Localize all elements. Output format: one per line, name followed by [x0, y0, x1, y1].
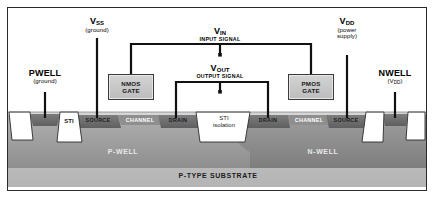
label-substrate: P-TYPE SUBSTRATE	[138, 172, 298, 179]
label-vdd: VDD (power supply)	[318, 16, 376, 40]
nmos-gate[interactable]: NMOS GATE	[108, 74, 154, 100]
label-pmos-drain: DRAIN	[249, 117, 287, 123]
diagram-canvas: PWELL (ground) VSS (ground) VIN INPUT SI…	[0, 0, 436, 200]
label-nmos-drain: DRAIN	[159, 117, 197, 123]
nmos-gate-line2: GATE	[122, 87, 140, 94]
label-n-well: N-WELL	[288, 148, 358, 155]
label-sti-center-line1: STI	[196, 115, 252, 122]
label-pwell-tap-name: PWELL	[14, 68, 76, 78]
label-vin: VIN INPUT SIGNAL	[178, 26, 262, 43]
label-vout-note: OUTPUT SIGNAL	[176, 74, 264, 80]
label-vdd-note-line1: (power	[318, 27, 376, 34]
label-sti-center: STI isolation	[196, 115, 252, 129]
sti-far-right	[406, 112, 425, 140]
label-nmos-channel: CHANNEL	[117, 117, 163, 123]
vin-terminal-dot	[218, 53, 222, 57]
label-nwell-tap-name: NWELL	[364, 68, 426, 78]
label-pwell-tap: PWELL (ground)	[14, 68, 76, 85]
label-vss-subscript: SS	[96, 20, 104, 26]
label-vdd-name: VDD	[318, 16, 376, 27]
label-vout: VOUT OUTPUT SIGNAL	[176, 63, 264, 80]
label-sti-left-text: STI	[64, 118, 73, 124]
label-nwell-tap: NWELL (VDD)	[364, 68, 426, 85]
label-pwell-tap-note: (ground)	[14, 78, 76, 85]
label-p-well: P-WELL	[88, 148, 158, 155]
label-vss-name: VSS	[62, 16, 132, 27]
sti-far-left	[9, 112, 33, 140]
label-nmos-source: SOURCE	[76, 117, 120, 123]
label-pmos-source: SOURCE	[324, 117, 368, 123]
vout-terminal-dot	[218, 90, 222, 94]
label-vdd-note-line2: supply)	[318, 33, 376, 40]
label-vss: VSS (ground)	[62, 16, 132, 33]
label-sti-center-line2: isolation	[196, 122, 252, 129]
label-vin-note: INPUT SIGNAL	[178, 37, 262, 43]
pmos-gate[interactable]: PMOS GATE	[288, 74, 334, 100]
pmos-gate-line2: GATE	[302, 87, 320, 94]
nmos-gate-line1: NMOS	[121, 80, 140, 87]
label-vss-note: (ground)	[62, 27, 132, 34]
label-nwell-tap-note: (VDD)	[364, 78, 426, 85]
label-vdd-subscript: DD	[346, 20, 355, 26]
pmos-gate-line1: PMOS	[301, 80, 320, 87]
